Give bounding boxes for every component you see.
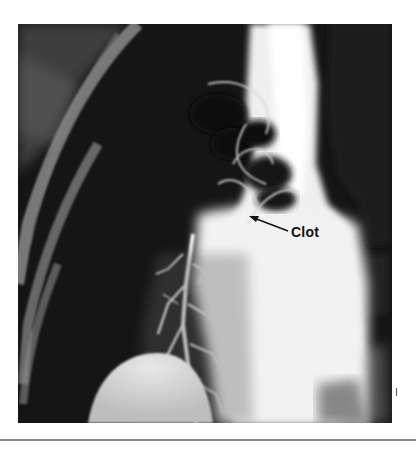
angiogram-image [18,24,392,423]
clot-label: Clot [291,224,319,240]
horizontal-rule [0,439,416,441]
angiogram-graphic [18,24,392,423]
margin-tick [396,388,397,396]
